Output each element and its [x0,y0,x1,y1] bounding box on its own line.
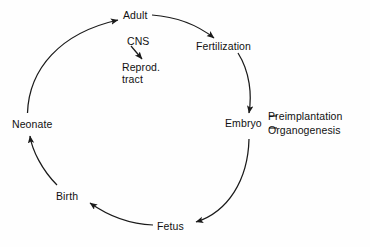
center-label-cns: CNS [127,35,149,47]
center-label-reprod-line2: tract [122,73,143,85]
node-label-fetus: Fetus [157,220,184,232]
arc-birth-to-neonate [30,136,57,185]
arc-fertilization-to-embryo [238,53,250,113]
cycle-diagram: Adult Fertilization Embryo Fetus Birth N… [0,0,370,247]
node-label-fertilization: Fertilization [196,40,251,52]
arc-fetus-to-birth [90,203,153,225]
node-label-birth: Birth [56,190,78,202]
annotation-preimplantation: Preimplantation [268,109,342,123]
arrow-cns-to-reprod-tract [131,46,142,59]
embryo-annotations: Preimplantation Organogenesis [268,109,342,137]
arc-embryo-to-fetus [196,139,249,222]
annotation-organogenesis: Organogenesis [268,123,342,137]
center-label-reprod-line1: Reprod. [122,61,160,73]
node-label-neonate: Neonate [12,118,52,130]
center-label-reprod-tract: Reprod. tract [122,61,160,86]
node-label-adult: Adult [123,9,147,21]
arc-adult-to-fertilization [152,15,214,38]
arc-neonate-to-adult [28,20,119,113]
node-label-embryo: Embryo [225,117,262,129]
